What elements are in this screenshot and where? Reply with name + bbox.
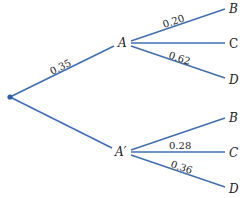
node-a-label: A <box>117 36 127 50</box>
prob-root-a-label: 0.35 <box>48 57 73 77</box>
root-node-dot <box>7 94 12 99</box>
node-a-prime-b-label: B <box>228 111 238 125</box>
probability-tree-diagram: A A′ B C D B C D 0.35 0.20 0.62 0.28 0.3… <box>0 0 244 198</box>
prob-a-d-label: 0.62 <box>167 49 192 66</box>
node-a-prime-c-label: C <box>229 146 238 160</box>
node-a-b-label: B <box>228 2 238 16</box>
node-a-prime-label: A′ <box>114 145 127 159</box>
edge-root-to-a-prime <box>10 97 112 148</box>
node-a-c-label: C <box>229 37 238 51</box>
node-a-d-label: D <box>228 73 239 87</box>
prob-a-prime-d-label: 0.36 <box>169 158 194 175</box>
node-a-prime-d-label: D <box>228 182 239 196</box>
prob-a-prime-c-label: 0.28 <box>169 140 191 151</box>
